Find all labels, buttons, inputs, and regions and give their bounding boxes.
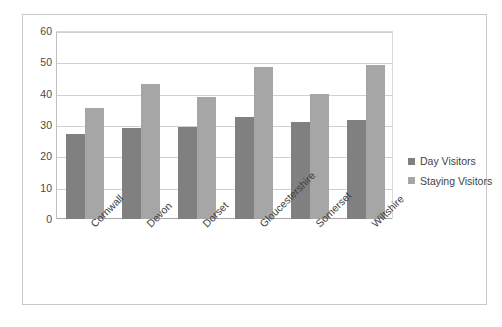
y-axis-tick-label: 0	[26, 214, 52, 225]
bar	[85, 108, 104, 219]
y-axis-tick-label: 10	[26, 182, 52, 193]
bar-group	[113, 32, 169, 219]
legend-swatch-icon	[408, 177, 415, 184]
y-axis: 0102030405060	[23, 31, 52, 219]
bar-group	[226, 32, 282, 219]
y-axis-tick-label: 40	[26, 88, 52, 99]
bar-group	[169, 32, 225, 219]
bar	[366, 65, 385, 219]
bar	[141, 84, 160, 219]
bar	[178, 127, 197, 219]
y-axis-tick-label: 30	[26, 120, 52, 131]
bar-group	[57, 32, 113, 219]
y-axis-tick-label: 50	[26, 57, 52, 68]
y-axis-tick-label: 20	[26, 151, 52, 162]
bar	[347, 120, 366, 219]
x-axis-category-labels: CornwallDevonDorsetGloucestershireSomers…	[56, 221, 393, 291]
bar	[254, 67, 273, 219]
legend-item[interactable]: Staying Visitors	[408, 176, 502, 187]
legend-label: Day Visitors	[420, 156, 476, 167]
bar	[122, 128, 141, 219]
legend-label: Staying Visitors	[420, 176, 492, 187]
bar	[310, 94, 329, 219]
legend-swatch-icon	[408, 158, 415, 165]
y-axis-tick-label: 60	[26, 26, 52, 37]
bar	[197, 97, 216, 219]
legend-item[interactable]: Day Visitors	[408, 156, 502, 167]
chart-legend: Day VisitorsStaying Visitors	[408, 156, 502, 195]
chart-frame: 0102030405060 CornwallDevonDorsetGlouces…	[22, 14, 487, 305]
bar	[235, 117, 254, 219]
bar	[66, 134, 85, 219]
